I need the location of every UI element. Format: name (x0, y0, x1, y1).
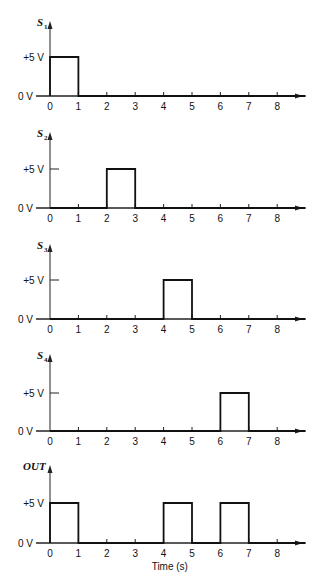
x-tick-label: 6 (218, 436, 224, 447)
x-tick-label: 1 (76, 101, 82, 112)
x-tick-label: 8 (274, 436, 280, 447)
svg-text:2: 2 (44, 134, 48, 142)
x-tick-label: 7 (246, 436, 252, 447)
y-tick-label: +5 V (23, 388, 44, 399)
waveform-s2 (50, 169, 306, 208)
waveform-out (50, 503, 306, 543)
y-tick-label: 0 V (18, 538, 33, 549)
signal-label: S (37, 127, 43, 139)
signal-label: OUT (23, 460, 47, 472)
x-tick-label: 0 (47, 213, 53, 224)
panel-out: +5 V0 V012345678OUT (18, 460, 306, 559)
y-tick-label: 0 V (18, 314, 33, 325)
svg-text:1: 1 (44, 23, 48, 31)
y-axis-arrow-icon (48, 132, 53, 140)
x-tick-label: 3 (132, 436, 138, 447)
x-tick-label: 0 (47, 324, 53, 335)
y-tick-label: +5 V (23, 164, 44, 175)
y-tick-label: 0 V (18, 426, 33, 437)
y-axis-arrow-icon (48, 21, 53, 29)
x-tick-label: 6 (218, 548, 224, 559)
x-tick-label: 8 (274, 324, 280, 335)
x-tick-label: 5 (189, 436, 195, 447)
y-tick-label: +5 V (23, 52, 44, 63)
x-tick-label: 4 (161, 548, 167, 559)
y-tick-label: 0 V (18, 91, 33, 102)
x-tick-label: 2 (104, 213, 110, 224)
svg-text:3: 3 (44, 246, 48, 254)
x-tick-label: 3 (132, 548, 138, 559)
x-tick-label: 0 (47, 548, 53, 559)
signal-label: S (37, 16, 43, 28)
x-tick-label: 5 (189, 213, 195, 224)
x-tick-label: 1 (76, 213, 82, 224)
x-tick-label: 6 (218, 324, 224, 335)
x-tick-label: 8 (274, 548, 280, 559)
x-tick-label: 7 (246, 101, 252, 112)
panel-s3: +5 V0 V012345678S3 (18, 239, 306, 335)
x-tick-label: 8 (274, 213, 280, 224)
x-tick-label: 4 (161, 213, 167, 224)
x-tick-label: 2 (104, 324, 110, 335)
panel-s1: +5 V0 V012345678S1 (18, 16, 306, 112)
x-tick-label: 6 (218, 101, 224, 112)
timing-diagram: +5 V0 V012345678S1+5 V0 V012345678S2+5 V… (0, 0, 322, 581)
y-axis-arrow-icon (48, 465, 53, 473)
x-tick-label: 2 (104, 548, 110, 559)
x-tick-label: 8 (274, 101, 280, 112)
panel-s4: +5 V0 V012345678S4 (18, 349, 306, 447)
x-axis-label: Time (s) (152, 561, 188, 572)
x-tick-label: 4 (161, 101, 167, 112)
x-tick-label: 4 (161, 436, 167, 447)
y-tick-label: +5 V (23, 275, 44, 286)
x-tick-label: 7 (246, 548, 252, 559)
x-tick-label: 2 (104, 436, 110, 447)
panel-s2: +5 V0 V012345678S2 (18, 127, 306, 224)
x-tick-label: 6 (218, 213, 224, 224)
waveform-s3 (50, 280, 306, 319)
x-tick-label: 1 (76, 548, 82, 559)
svg-text:4: 4 (44, 356, 48, 364)
signal-label: S (37, 349, 43, 361)
y-tick-label: 0 V (18, 203, 33, 214)
x-tick-label: 5 (189, 324, 195, 335)
x-tick-label: 7 (246, 324, 252, 335)
x-tick-label: 5 (189, 548, 195, 559)
x-tick-label: 3 (132, 101, 138, 112)
y-axis-arrow-icon (48, 244, 53, 252)
x-tick-label: 5 (189, 101, 195, 112)
y-tick-label: +5 V (23, 498, 44, 509)
signal-label: S (37, 239, 43, 251)
x-tick-label: 3 (132, 213, 138, 224)
x-tick-label: 1 (76, 324, 82, 335)
waveform-s4 (50, 393, 306, 431)
x-tick-label: 3 (132, 324, 138, 335)
waveform-s1 (50, 57, 306, 96)
x-tick-label: 4 (161, 324, 167, 335)
x-tick-label: 2 (104, 101, 110, 112)
x-tick-label: 0 (47, 436, 53, 447)
x-tick-label: 0 (47, 101, 53, 112)
x-tick-label: 7 (246, 213, 252, 224)
x-tick-label: 1 (76, 436, 82, 447)
y-axis-arrow-icon (48, 354, 53, 362)
